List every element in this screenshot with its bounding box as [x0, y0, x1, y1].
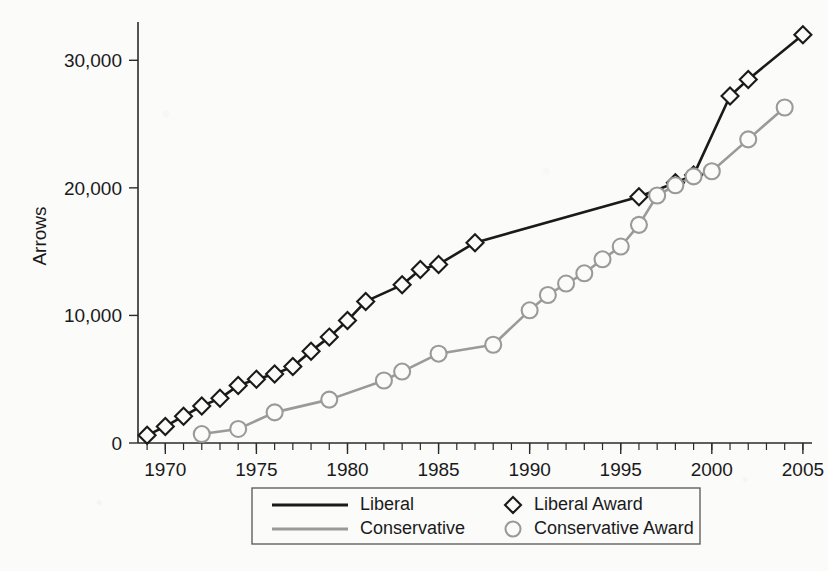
legend-marker-conservative-award: [506, 522, 521, 537]
x-axis-ticks: 19701975198019851990199520002005: [144, 443, 824, 480]
data-point-liberal-1971: [175, 408, 192, 425]
data-point-conservative-1982: [376, 372, 392, 388]
data-point-liberal-1985: [430, 256, 447, 273]
x-tick-label-2005: 2005: [782, 459, 824, 480]
data-point-conservative-1991: [540, 287, 556, 303]
x-axis-minor-ticks: [147, 443, 803, 450]
x-tick-label-1980: 1980: [326, 459, 368, 480]
data-point-conservative-1996: [631, 217, 647, 233]
data-point-conservative-1998: [667, 177, 683, 193]
data-point-liberal-1975: [248, 371, 265, 388]
x-tick-label-1970: 1970: [144, 459, 186, 480]
data-point-conservative-1979: [321, 392, 337, 408]
data-point-conservative-1990: [522, 302, 538, 318]
x-tick-label-1975: 1975: [235, 459, 277, 480]
legend-label-conservative-award: Conservative Award: [534, 518, 694, 538]
data-point-conservative-2002: [740, 131, 756, 147]
y-tick-label-10000: 10,000: [64, 305, 122, 326]
data-point-conservative-1994: [595, 251, 611, 267]
data-point-liberal-1972: [193, 398, 210, 415]
legend-label-liberal-award: Liberal Award: [534, 494, 643, 514]
data-point-conservative-1995: [613, 239, 629, 255]
series-line-conservative: [202, 107, 785, 434]
data-point-liberal-1969: [139, 427, 156, 444]
y-axis-ticks: 010,00020,00030,000: [64, 50, 138, 454]
data-point-conservative-1976: [267, 404, 283, 420]
chart-legend: LiberalConservativeLiberal AwardConserva…: [252, 488, 700, 544]
data-point-conservative-1974: [230, 421, 246, 437]
y-tick-label-20000: 20,000: [64, 178, 122, 199]
data-series-layer: [139, 26, 812, 444]
x-tick-label-1995: 1995: [600, 459, 642, 480]
x-tick-label-1985: 1985: [417, 459, 459, 480]
chart-figure: 010,00020,00030,000 19701975198019851990…: [0, 0, 828, 571]
series-markers-conservative: [194, 99, 793, 442]
data-point-liberal-1996: [630, 188, 647, 205]
series-markers-liberal: [139, 26, 812, 444]
legend-label-liberal: Liberal: [360, 494, 414, 514]
line-chart-canvas: 010,00020,00030,000 19701975198019851990…: [0, 0, 828, 571]
data-point-liberal-1976: [266, 366, 283, 383]
y-axis-title: Arrows: [29, 206, 50, 265]
data-point-conservative-1972: [194, 426, 210, 442]
data-point-conservative-1983: [394, 364, 410, 380]
data-point-liberal-1974: [230, 377, 247, 394]
data-point-liberal-1973: [211, 390, 228, 407]
data-point-conservative-1988: [485, 337, 501, 353]
data-point-conservative-1993: [576, 265, 592, 281]
data-point-conservative-1992: [558, 276, 574, 292]
data-point-conservative-1997: [649, 188, 665, 204]
y-tick-label-0: 0: [111, 433, 122, 454]
data-point-liberal-1970: [157, 418, 174, 435]
x-tick-label-2000: 2000: [691, 459, 733, 480]
y-tick-label-30000: 30,000: [64, 50, 122, 71]
data-point-conservative-1985: [431, 346, 447, 362]
x-tick-label-1990: 1990: [509, 459, 551, 480]
data-point-conservative-1999: [686, 168, 702, 184]
legend-label-conservative: Conservative: [360, 518, 465, 538]
data-point-liberal-1987: [467, 234, 484, 251]
data-point-conservative-2004: [777, 99, 793, 115]
data-point-conservative-2000: [704, 163, 720, 179]
